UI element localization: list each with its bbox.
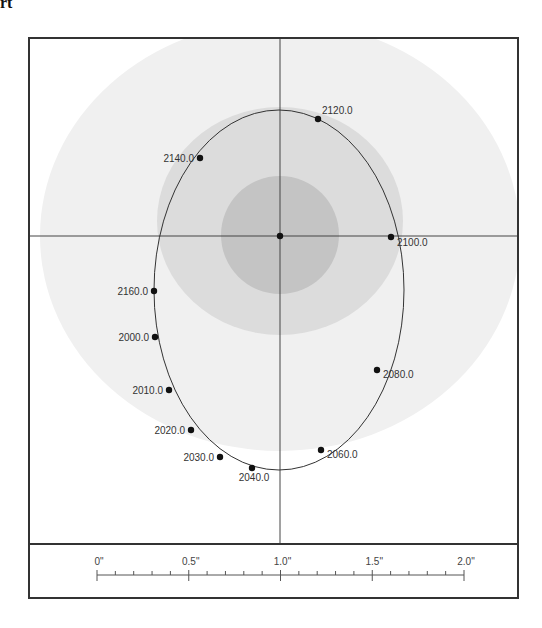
orbit-point-marker — [315, 116, 321, 122]
scale-label: 1.0" — [274, 556, 292, 567]
orbit-point-marker — [188, 427, 194, 433]
orbit-point-marker — [388, 234, 394, 240]
orbit-point-label: 2140.0 — [163, 153, 194, 164]
scale-label: 2.0" — [457, 556, 475, 567]
orbit-point-label: 2160.0 — [117, 286, 148, 297]
orbit-plot-area: 2000.02010.02020.02030.02040.02060.02080… — [30, 39, 517, 543]
orbit-point-label: 2100.0 — [397, 237, 428, 248]
orbit-point-marker — [374, 367, 380, 373]
corner-text-fragment: rt — [0, 0, 12, 12]
scale-bar-panel: 0"0.5"1.0"1.5"2.0" — [30, 543, 517, 599]
orbit-point-marker — [151, 288, 157, 294]
orbit-point-label: 2120.0 — [322, 105, 353, 116]
orbit-point-marker — [197, 155, 203, 161]
scale-bar: 0"0.5"1.0"1.5"2.0" — [30, 545, 517, 599]
orbit-point-label: 2030.0 — [183, 452, 214, 463]
scale-label: 0.5" — [182, 556, 200, 567]
scale-label: 1.5" — [366, 556, 384, 567]
orbit-point-marker — [249, 465, 255, 471]
orbit-point-label: 2000.0 — [118, 332, 149, 343]
orbit-diagram-frame: 2000.02010.02020.02030.02040.02060.02080… — [28, 37, 519, 599]
orbit-point-label: 2020.0 — [154, 425, 185, 436]
primary-star-marker — [277, 233, 283, 239]
orbit-point-label: 2060.0 — [327, 449, 358, 460]
orbit-point-marker — [166, 387, 172, 393]
scale-label: 0" — [94, 556, 104, 567]
orbit-plot-canvas: 2000.02010.02020.02030.02040.02060.02080… — [30, 39, 517, 543]
orbit-point-label: 2040.0 — [239, 472, 270, 483]
orbit-point-label: 2010.0 — [132, 385, 163, 396]
orbit-point-marker — [318, 447, 324, 453]
orbit-point-marker — [217, 454, 223, 460]
orbit-point-label: 2080.0 — [383, 369, 414, 380]
orbit-point-marker — [152, 334, 158, 340]
